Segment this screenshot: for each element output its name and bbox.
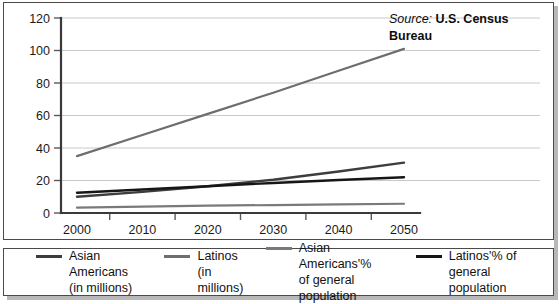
legend-entry-2: Asian Americans'% of general population [266,240,402,304]
legend-entry-1: Latinos (in millions) [164,248,251,296]
source-label: Source: [389,12,432,26]
x-tick-label-2010: 2010 [128,223,156,237]
legend-swatch-0 [36,255,62,258]
chart-plot-panel: 020406080100120 200020102020203020402050… [3,2,554,240]
legend-swatch-2 [266,247,292,250]
y-tick-label-100: 100 [29,44,50,58]
series-line-3 [77,177,404,192]
chart-legend-panel: Asian Americans (in millions)Latinos (in… [3,248,554,296]
y-tick-label-20: 20 [36,174,50,188]
x-tick-label-2040: 2040 [325,223,353,237]
legend-entry-0: Asian Americans (in millions) [36,248,150,296]
y-axis-tick-labels: 020406080100120 [29,12,50,221]
x-axis-tick-labels: 200020102020203020402050 [63,223,418,237]
legend-entry-3: Latinos'% of general population [416,248,539,296]
x-tick-label-2030: 2030 [259,223,287,237]
legend-label-2: Asian Americans'% of general population [299,240,402,304]
legend-label-1: Latinos (in millions) [197,248,251,296]
y-tick-label-80: 80 [36,77,50,91]
x-tick-label-2000: 2000 [63,223,91,237]
legend-label-0: Asian Americans (in millions) [69,248,150,296]
series-line-2 [77,204,404,208]
series-line-1 [77,49,404,156]
legend-swatch-3 [416,255,442,258]
source-note: Source: U.S. Census Bureau [389,11,539,44]
y-tick-label-60: 60 [36,109,50,123]
x-tick-label-2020: 2020 [194,223,222,237]
y-tick-label-120: 120 [29,12,50,26]
y-tick-label-0: 0 [43,207,50,221]
y-tick-label-40: 40 [36,142,50,156]
legend-label-3: Latinos'% of general population [449,248,539,296]
legend-swatch-1 [164,255,190,258]
legend-row: Asian Americans (in millions)Latinos (in… [4,249,553,295]
series-group [77,49,404,208]
x-tick-label-2050: 2050 [390,223,418,237]
axis-ticks-group [54,18,371,220]
